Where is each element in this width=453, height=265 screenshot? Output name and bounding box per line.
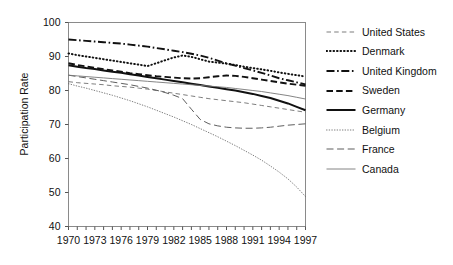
legend-item-united-kingdom[interactable]: United Kingdom: [326, 61, 452, 81]
legend-swatch-line: [326, 65, 356, 77]
data-lines: [69, 40, 306, 197]
chart-figure: Participation Rate 405060708090100 19701…: [0, 0, 453, 265]
legend-label: Denmark: [362, 46, 405, 57]
legend-item-france[interactable]: France: [326, 140, 452, 160]
legend-label: Sweden: [362, 85, 400, 96]
legend-swatch-line: [326, 85, 356, 97]
legend-swatch-line: [326, 143, 356, 155]
legend-item-united-states[interactable]: United States: [326, 22, 452, 42]
legend-label: Germany: [362, 105, 405, 116]
legend-item-denmark[interactable]: Denmark: [326, 42, 452, 62]
series-line-denmark: [69, 53, 306, 76]
axis-ticks: [65, 23, 306, 231]
legend-item-canada[interactable]: Canada: [326, 159, 452, 179]
legend-label: United Kingdom: [362, 66, 437, 77]
legend-item-germany[interactable]: Germany: [326, 100, 452, 120]
legend-swatch-line: [326, 163, 356, 175]
legend-swatch-line: [326, 124, 356, 136]
series-line-belgium: [69, 84, 306, 197]
legend-swatch-line: [326, 45, 356, 57]
chart-legend: United StatesDenmarkUnited KingdomSweden…: [326, 22, 452, 179]
legend-swatch-line: [326, 26, 356, 38]
legend-label: Belgium: [362, 125, 400, 136]
legend-item-belgium[interactable]: Belgium: [326, 120, 452, 140]
legend-label: United States: [362, 27, 425, 38]
legend-label: Canada: [362, 164, 399, 175]
legend-item-sweden[interactable]: Sweden: [326, 81, 452, 101]
legend-label: France: [362, 144, 395, 155]
legend-swatch-line: [326, 104, 356, 116]
